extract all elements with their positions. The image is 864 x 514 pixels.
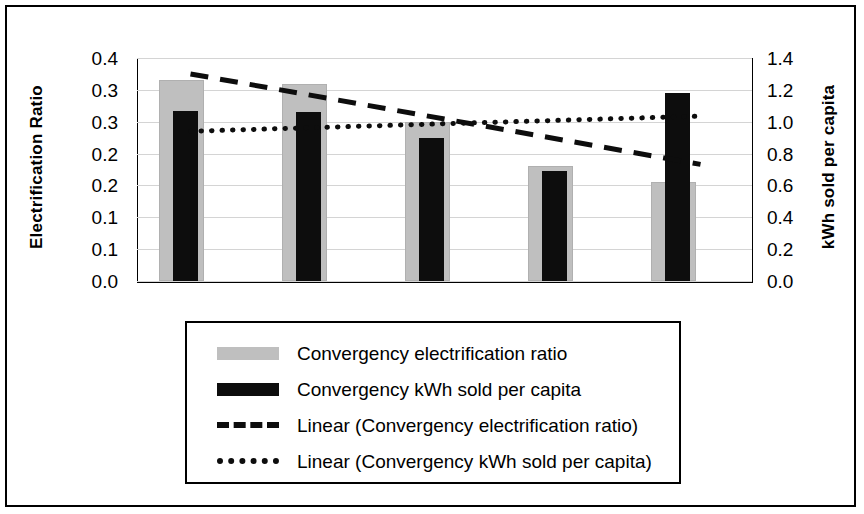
plot-area <box>137 58 752 281</box>
y-axis-right-tick-label: 0.8 <box>767 145 823 164</box>
gray-bar-icon <box>217 347 279 360</box>
y-axis-left-tick-label: 0.1 <box>62 208 118 227</box>
legend-item[interactable]: Convergency kWh sold per capita <box>187 371 679 407</box>
plot-right-spine <box>752 58 753 282</box>
y-axis-left-tick-label: 0.3 <box>62 81 118 100</box>
y-axis-right-tick-label: 0.4 <box>767 208 823 227</box>
y-axis-right-tick-label: 0.0 <box>767 272 823 291</box>
legend-item-label: Convergency kWh sold per capita <box>297 380 581 399</box>
y-axis-right-tick-label: 0.6 <box>767 176 823 195</box>
chart-figure: Electrification Ratio kWh sold per capit… <box>5 5 856 507</box>
y-axis-right-tick-label: 1.4 <box>767 49 823 68</box>
chart-legend: Convergency electrification ratioConverg… <box>185 321 681 484</box>
y-axis-right-tick-label: 0.2 <box>767 240 823 259</box>
legend-item[interactable]: Linear (Convergency kWh sold per capita) <box>187 443 679 479</box>
y-axis-left-title: Electrification Ratio <box>27 57 47 277</box>
black-bar-icon <box>217 383 279 396</box>
y-axis-left-tick-label: 0.4 <box>62 49 118 68</box>
legend-item-label: Linear (Convergency electrification rati… <box>297 416 638 435</box>
y-axis-right-tick-label: 1.0 <box>767 113 823 132</box>
trendline-kwh-per-capita <box>191 116 701 131</box>
y-axis-right-tick-label: 1.2 <box>767 81 823 100</box>
y-axis-left-tick-label: 0.2 <box>62 145 118 164</box>
legend-item-label: Linear (Convergency kWh sold per capita) <box>297 452 652 471</box>
legend-item[interactable]: Convergency electrification ratio <box>187 335 679 371</box>
dotted-line-icon <box>217 458 279 464</box>
y-axis-left-tick-label: 0.2 <box>62 176 118 195</box>
y-axis-left-tick-label: 0.1 <box>62 240 118 259</box>
dashed-line-icon <box>217 422 279 428</box>
legend-item-label: Convergency electrification ratio <box>297 344 567 363</box>
legend-item[interactable]: Linear (Convergency electrification rati… <box>187 407 679 443</box>
y-axis-left-tick-label: 0.3 <box>62 113 118 132</box>
trendline-electrification-ratio <box>191 74 701 164</box>
y-axis-left-tick-label: 0.0 <box>62 272 118 291</box>
gridline <box>137 281 752 282</box>
trendline-layer <box>137 58 752 281</box>
